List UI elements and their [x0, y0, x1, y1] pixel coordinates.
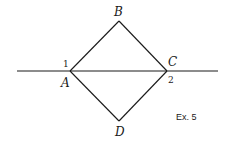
- exercise-caption: Ex. 5: [176, 112, 197, 122]
- geometry-diagram: B A C D 1 2 Ex. 5: [0, 0, 229, 144]
- point-label-C: C: [168, 55, 177, 69]
- angle-label-2: 2: [168, 75, 174, 85]
- angle-label-1: 1: [63, 59, 69, 69]
- segment-DA: [70, 71, 119, 121]
- segment-AB: [70, 21, 119, 71]
- segment-BC: [119, 21, 167, 71]
- point-label-D: D: [114, 125, 125, 139]
- point-label-A: A: [60, 76, 70, 90]
- point-label-B: B: [113, 5, 123, 19]
- segment-CD: [119, 71, 167, 121]
